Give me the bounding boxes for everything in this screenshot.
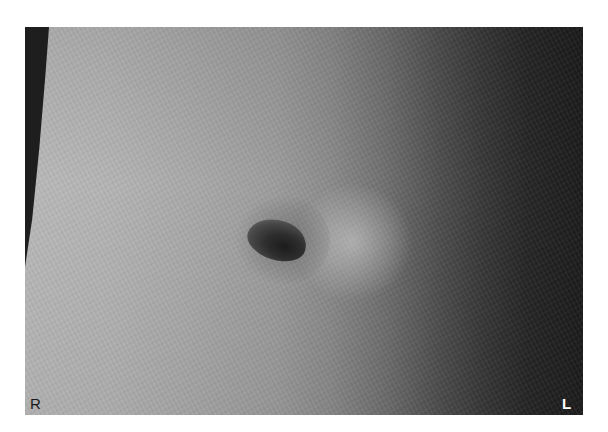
orientation-label-right: R — [30, 396, 41, 411]
abdomen-photograph — [25, 27, 583, 415]
orientation-label-left: L — [562, 396, 571, 411]
